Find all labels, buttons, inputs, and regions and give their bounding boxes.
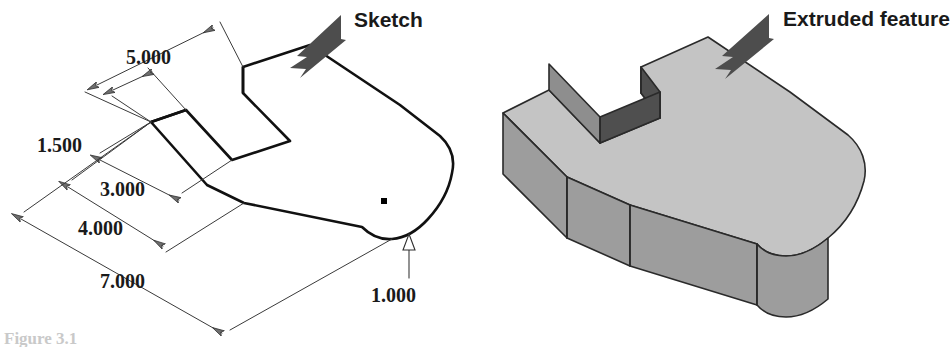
dim-label-1000: 1.000 [371,284,416,306]
dim-label-4000: 4.000 [78,217,123,239]
dim-label-5000: 5.000 [126,46,171,68]
solid-panel: Extruded feature [503,7,950,317]
dimension-5000: 5.000 [85,22,243,122]
dim-label-3000: 3.000 [100,178,145,200]
sketch-slot-edges [151,67,243,122]
dim-label-1500: 1.500 [37,134,82,156]
ext-line-5000-b [85,92,151,122]
extruded-feature-callout-label: Extruded feature [783,7,950,30]
dimension-1000: 1.000 [371,234,416,306]
sketch-profile [151,45,453,239]
ext-line-4000-b [166,203,244,252]
figure-caption: Figure 3.1 [4,329,77,347]
ext-line-5000-a [220,22,243,67]
dimension-1500: 1.500 [37,68,186,156]
ext-line-7000-b [230,239,392,330]
sketch-endpoint-marker [381,198,387,204]
dim-label-7000: 7.000 [100,270,145,292]
sketch-callout-label: Sketch [354,8,423,31]
sketch-slot [151,67,243,122]
technical-figure: 5.000 1.500 3.000 4.000 [0,0,950,347]
ext-line-3000-a [100,122,151,153]
sketch-callout-arrow-icon [290,15,346,78]
figure-page: 5.000 1.500 3.000 4.000 [0,0,950,347]
sketch-outer-profile [151,45,453,239]
sketch-panel: 5.000 1.500 3.000 4.000 [21,8,453,333]
ext-line-1500-a [148,68,186,110]
ext-line-1500-b [112,96,151,122]
dimension-4000: 4.000 [68,122,244,252]
sketch-callout: Sketch [290,8,423,78]
